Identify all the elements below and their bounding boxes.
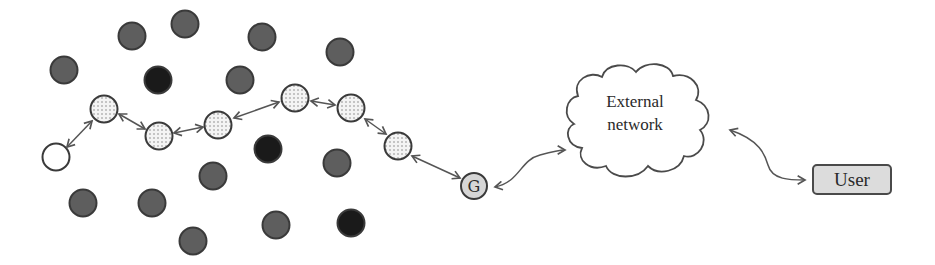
user-label: User xyxy=(834,169,870,191)
route-node xyxy=(385,133,412,160)
gray-node xyxy=(227,67,254,94)
gray-node xyxy=(139,190,166,217)
arrow-gateway-to-cloud xyxy=(495,150,565,187)
black-node xyxy=(338,210,365,237)
gray-node xyxy=(51,57,78,84)
arrow-white-to-dot1 xyxy=(67,121,92,147)
gray-node xyxy=(324,150,351,177)
route-node xyxy=(91,96,118,123)
gray-node xyxy=(200,163,227,190)
arrow-dot2-to-dot3 xyxy=(174,127,203,133)
arrow-dot6-to-gateway xyxy=(412,156,460,178)
gray-node xyxy=(172,11,199,38)
arrow-cloud-to-user xyxy=(730,130,805,180)
user-box: User xyxy=(812,164,892,195)
white-node xyxy=(43,144,70,171)
cloud-label-line2: network xyxy=(580,113,690,136)
network-diagram: G xyxy=(0,0,935,265)
black-node xyxy=(145,67,172,94)
gray-node xyxy=(263,212,290,239)
gray-node xyxy=(180,228,207,255)
gray-node-group xyxy=(51,11,354,255)
gray-node xyxy=(249,24,276,51)
arrow-dot3-to-dot4 xyxy=(234,102,279,118)
black-node xyxy=(255,136,282,163)
arrow-dot4-to-dot5 xyxy=(311,101,335,105)
gray-node xyxy=(70,190,97,217)
route-node xyxy=(146,123,173,150)
route-node-group xyxy=(91,85,412,160)
route-node xyxy=(338,95,365,122)
cloud-label-line1: External xyxy=(580,90,690,113)
gray-node xyxy=(327,39,354,66)
gray-node xyxy=(119,23,146,50)
gateway-node: G xyxy=(461,173,487,199)
cloud-label: External network xyxy=(580,90,690,136)
arrow-dot1-to-dot2 xyxy=(119,114,145,129)
arrow-dot5-to-dot6 xyxy=(365,119,386,134)
white-node-group xyxy=(43,144,70,171)
route-node xyxy=(282,85,309,112)
gateway-label: G xyxy=(468,177,481,196)
route-node xyxy=(205,112,232,139)
